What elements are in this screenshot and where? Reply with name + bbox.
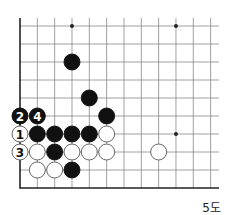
black-stone [64,162,80,178]
star-point [70,24,74,28]
move-number: 2 [16,110,24,124]
black-stone [99,108,115,124]
white-stone [64,144,80,160]
white-stone [99,144,115,160]
move-number: 4 [33,110,41,124]
star-point [174,24,178,28]
white-stone [99,126,115,142]
black-stone [47,144,63,160]
move-number: 3 [16,146,24,160]
white-stone [151,144,167,160]
move-number: 1 [16,128,24,142]
white-stone [47,162,63,178]
star-point [174,132,178,136]
black-stone [47,126,63,142]
diagram-caption: 5도 [202,198,221,215]
black-stone [64,126,80,142]
black-stone [64,54,80,70]
black-stone [81,90,97,106]
go-board: 2413 [0,0,233,215]
white-stone [29,144,45,160]
white-stone [29,162,45,178]
white-stone [81,144,97,160]
black-stone [81,126,97,142]
black-stone [29,126,45,142]
